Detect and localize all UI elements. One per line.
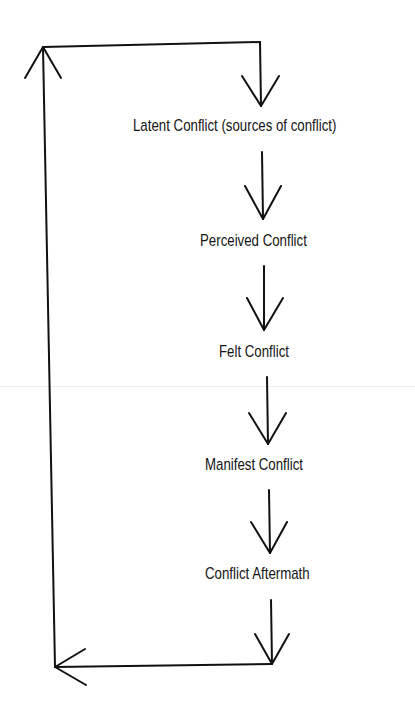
loop-left-line <box>43 47 55 667</box>
stage-perceived-conflict: Perceived Conflict <box>200 231 307 251</box>
connector-aftermath-to-loop <box>255 600 289 664</box>
loop-bottom-line <box>55 664 272 667</box>
connector-perceived-to-felt <box>247 266 283 330</box>
connector-felt-to-manifest <box>249 377 286 444</box>
stage-manifest-conflict: Manifest Conflict <box>205 455 303 475</box>
connector-manifest-to-aftermath <box>251 490 287 553</box>
stage-felt-conflict: Felt Conflict <box>219 342 289 362</box>
loop-top-line <box>43 42 260 47</box>
connector-latent-to-perceived <box>245 152 281 219</box>
loop-right-drop <box>260 42 261 106</box>
conflict-process-diagram <box>0 0 415 723</box>
stage-latent-conflict: Latent Conflict (sources of conflict) <box>133 116 336 136</box>
stage-conflict-aftermath: Conflict Aftermath <box>205 564 310 584</box>
